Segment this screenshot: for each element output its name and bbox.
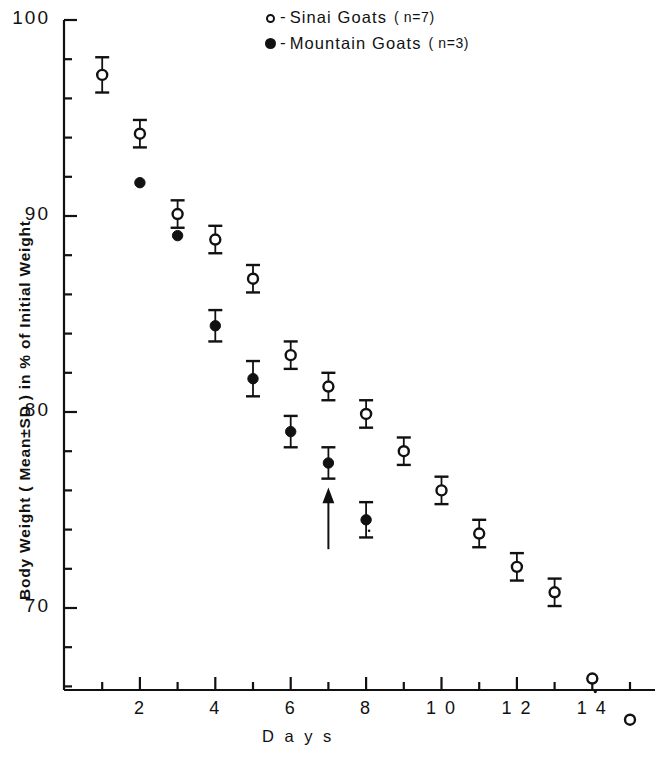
- data-point-mountain-goats[interactable]: [172, 230, 182, 240]
- y-tick-label: 100: [0, 7, 50, 29]
- ink-speck: [594, 690, 597, 693]
- data-point-sinai-goats[interactable]: [210, 235, 220, 245]
- y-tick-label: 70: [0, 595, 50, 617]
- annotation-arrow-head: [324, 490, 333, 502]
- data-point-sinai-goats[interactable]: [587, 674, 597, 684]
- x-tick-label: 4: [185, 698, 245, 719]
- y-tick-label: 80: [0, 399, 50, 421]
- x-tick-label: 1 2: [487, 698, 547, 719]
- data-point-mountain-goats[interactable]: [361, 515, 371, 525]
- data-point-sinai-goats[interactable]: [512, 562, 522, 572]
- x-tick-label: 1 4: [562, 698, 622, 719]
- data-point-mountain-goats[interactable]: [210, 321, 220, 331]
- plot-area: [0, 0, 661, 762]
- data-point-sinai-goats[interactable]: [97, 70, 107, 80]
- data-point-sinai-goats[interactable]: [474, 529, 484, 539]
- data-point-sinai-goats[interactable]: [248, 274, 258, 284]
- data-point-mountain-goats[interactable]: [248, 373, 258, 383]
- x-tick-label: 2: [110, 698, 170, 719]
- figure-container: - Sinai Goats ( n=7) - Mountain Goats ( …: [0, 0, 661, 762]
- data-point-mountain-goats[interactable]: [323, 458, 333, 468]
- data-point-sinai-goats[interactable]: [399, 446, 409, 456]
- x-tick-label: 1 0: [412, 698, 472, 719]
- data-point-sinai-goats[interactable]: [550, 587, 560, 597]
- y-tick-label: 90: [0, 203, 50, 225]
- data-point-sinai-goats[interactable]: [625, 715, 635, 725]
- data-point-sinai-goats[interactable]: [437, 485, 447, 495]
- data-point-mountain-goats[interactable]: [135, 177, 145, 187]
- data-point-sinai-goats[interactable]: [135, 129, 145, 139]
- data-point-mountain-goats[interactable]: [286, 426, 296, 436]
- data-point-sinai-goats[interactable]: [286, 350, 296, 360]
- data-point-sinai-goats[interactable]: [361, 409, 371, 419]
- data-point-sinai-goats[interactable]: [323, 382, 333, 392]
- data-point-sinai-goats[interactable]: [173, 209, 183, 219]
- ink-speck: [368, 530, 371, 533]
- x-tick-label: 6: [261, 698, 321, 719]
- x-tick-label: 8: [336, 698, 396, 719]
